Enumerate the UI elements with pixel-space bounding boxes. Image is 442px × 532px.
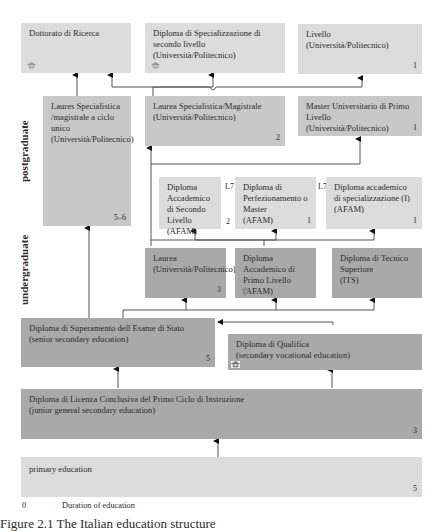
- duration: 1: [413, 215, 417, 226]
- duration: 5: [413, 483, 417, 494]
- box-sub: (Università/Politecnico): [51, 134, 123, 145]
- box-sub: (senior secondary education): [29, 334, 207, 345]
- figure-caption: Figure 2.1 The Italian education structu…: [0, 516, 216, 532]
- box-sub: (junior general secondary education): [29, 405, 414, 416]
- postgraduate-label: postgraduate: [18, 120, 30, 182]
- legend-label: Duration of education: [62, 501, 135, 510]
- box-its: Diploma di Tecnico Superiore (ITS): [332, 248, 422, 298]
- duration: 3: [413, 425, 417, 436]
- box-dottorato: Dottorato di Ricerca: [21, 23, 131, 73]
- duration: 3: [217, 284, 221, 295]
- box-laurea: Laurea (Università/Politecnico) 3: [145, 248, 226, 298]
- box-title: Diploma di Tecnico Superiore: [340, 253, 414, 275]
- box-magistrale: Laurea Specialistica/Magistrale (Univers…: [145, 96, 285, 146]
- graduation-cap-icon: [231, 361, 240, 368]
- box-sub: (Università/Politecnico): [153, 112, 277, 123]
- box-primary: primary education 5: [21, 457, 422, 497]
- box-sub: (Università/Politecnico): [153, 264, 218, 275]
- box-title: primary education: [29, 464, 414, 475]
- box-title: Diploma di Specializzazione di secondo l…: [153, 28, 277, 50]
- duration: 5–6: [114, 212, 126, 223]
- box-qualifica: Diploma di Qualifica (secondary vocation…: [228, 334, 422, 370]
- duration: 1: [307, 215, 311, 226]
- undergraduate-label: undergraduate: [18, 235, 30, 305]
- box-sub: (AFAM): [334, 204, 414, 215]
- box-afam-spec: Diploma accademico di specializzazione (…: [326, 177, 422, 229]
- box-title: Diploma di Superamento dell Esame di Sta…: [29, 323, 207, 334]
- box-sub: (Università/Politecnico): [306, 123, 414, 134]
- duration: 5: [206, 353, 210, 364]
- box-ciclo-unico: Laures Specialistica /magistrale a ciclo…: [43, 96, 131, 226]
- box-licenza: Diploma di Licenza Conclusiva del Primo …: [21, 389, 422, 439]
- box-esame-stato: Diploma di Superamento dell Esame di Sta…: [21, 318, 215, 367]
- box-title: Master Universitario di Primo Livello: [306, 101, 414, 123]
- box-title: Livello: [306, 29, 414, 40]
- box-sub: (AFAM): [243, 286, 308, 297]
- box-title: Diploma Accademico di Primo Livello: [243, 253, 308, 286]
- box-sub: (secondary vocational education): [236, 350, 414, 361]
- graduation-cap-icon: [241, 287, 250, 294]
- box-sub: (Università/Politecnico): [306, 40, 414, 51]
- box-title: Laurea: [153, 253, 218, 264]
- box-title: Diploma di Qualifica: [236, 339, 414, 350]
- legend-symbol: 0: [22, 501, 26, 510]
- graduation-cap-icon: [27, 62, 36, 69]
- box-title: Dottorato di Ricerca: [29, 28, 123, 39]
- box-sub: (ITS): [340, 275, 414, 286]
- level-label: L7: [225, 182, 234, 191]
- box-title: Diploma accademico di specializzazione (…: [334, 182, 414, 204]
- box-sub: (Università/Politecnico): [153, 50, 277, 61]
- box-sub: (AFAM): [243, 215, 308, 226]
- box-afam-secondo: Diploma Accademico di Secondo Livello (A…: [159, 177, 221, 229]
- box-afam-primo: Diploma Accademico di Primo Livello (AFA…: [235, 248, 316, 298]
- box-title: Diploma Accademico di Secondo Livello: [167, 182, 213, 226]
- duration: 2: [226, 217, 230, 226]
- graduation-cap-icon: [151, 62, 160, 69]
- box-sub: (AFAM): [167, 226, 213, 237]
- box-master-secondo: Livello (Università/Politecnico) 1: [298, 24, 422, 74]
- duration: 1: [413, 60, 417, 71]
- box-spec-secondo: Diploma di Specializzazione di secondo l…: [145, 23, 285, 73]
- box-title: Laures Specialistica /magistrale a ciclo…: [51, 101, 123, 134]
- duration: 1: [413, 122, 417, 133]
- box-title: Diploma di Perfezionamento o Master: [243, 182, 308, 215]
- box-title: Diploma di Licenza Conclusiva del Primo …: [29, 394, 414, 405]
- box-title: Laurea Specialistica/Magistrale: [153, 101, 277, 112]
- box-master-primo: Master Universitario di Primo Livello (U…: [298, 96, 422, 136]
- box-afam-perf: Diploma di Perfezionamento o Master (AFA…: [235, 177, 316, 229]
- duration: 2: [276, 132, 280, 143]
